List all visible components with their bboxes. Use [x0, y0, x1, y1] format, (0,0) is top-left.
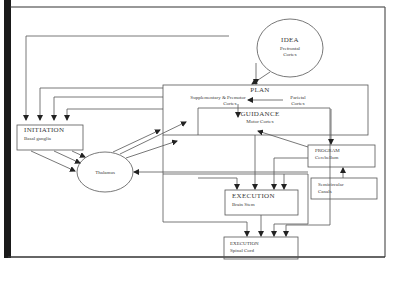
program-sub: Cerebellum — [315, 155, 375, 160]
program-title: PROGRAM — [315, 148, 375, 153]
idea-sub2: Cortex — [266, 52, 314, 57]
idea-sub1: Prefrontal — [266, 46, 314, 51]
brainstem-title: EXECUTION — [232, 193, 298, 200]
guidance-node — [198, 108, 330, 225]
guidance-title: GUIDANCE — [220, 111, 300, 118]
spinal-sub: Spinal Cord — [230, 248, 296, 253]
plan-sub-right1: Parietal — [278, 95, 318, 100]
thalamus-label: Thalamus — [85, 170, 125, 175]
plan-title: PLAN — [240, 87, 280, 94]
idea-title: IDEA — [270, 37, 310, 44]
initiation-title: INITIATION — [24, 127, 84, 134]
plan-sub-left1: Supplementary & Premotor — [168, 95, 268, 100]
brainstem-sub: Brain Stem — [232, 202, 298, 207]
canals-title: Semicircular — [318, 182, 376, 187]
initiation-sub: Basal ganglia — [24, 136, 84, 141]
spinal-title: EXECUTION — [230, 241, 296, 246]
plan-sub-right2: Cortex — [278, 101, 318, 106]
canals-sub: Canals — [318, 189, 376, 194]
plan-sub-left2: Cortex — [210, 101, 250, 106]
guidance-sub: Motor Cortex — [220, 119, 300, 124]
